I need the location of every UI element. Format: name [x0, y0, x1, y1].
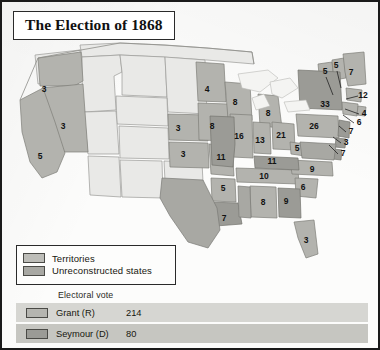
vote-label-vt: 5: [323, 66, 328, 76]
grant-swatch-icon: [26, 308, 48, 318]
vote-label-wv: 5: [295, 143, 300, 153]
vote-label-wi: 8: [233, 97, 238, 107]
vote-label-ia: 8: [210, 121, 215, 131]
vote-label-ga: 9: [284, 196, 289, 206]
page-title: The Election of 1868: [25, 16, 163, 34]
vote-label-ny: 33: [320, 99, 330, 109]
vote-label-nh: 5: [334, 60, 339, 70]
vote-label-nc: 9: [310, 164, 315, 174]
vote-label-or: 3: [42, 84, 47, 94]
vote-label-ct: 6: [357, 117, 362, 127]
vote-label-nj: 7: [349, 126, 354, 136]
unreconstructed-swatch-icon: [23, 266, 45, 276]
vote-label-la: 7: [222, 213, 227, 223]
vote-label-pa: 26: [309, 121, 319, 131]
vote-label-ne: 3: [176, 123, 181, 133]
map-title-box: The Election of 1868: [13, 11, 175, 40]
vote-label-ri: 4: [362, 108, 367, 118]
grant-label: Grant (R): [56, 308, 118, 318]
seymour-label: Seymour (D): [56, 329, 118, 339]
vote-label-mi: 8: [266, 108, 271, 118]
vote-label-de: 3: [344, 137, 349, 147]
seymour-votes: 80: [126, 329, 136, 339]
grant-votes: 214: [126, 308, 142, 318]
vote-label-tn: 10: [259, 171, 269, 181]
vote-label-al: 8: [261, 197, 266, 207]
vote-label-il: 16: [234, 131, 244, 141]
electoral-vote-heading: Electoral vote: [16, 290, 368, 303]
vote-label-mo: 11: [217, 152, 226, 162]
map-figure: 3 3 5 3 3 4 8 8 8 16 13 21 5 11 11 10 5 …: [0, 0, 380, 350]
legend-label-territories: Territories: [52, 253, 95, 264]
vote-label-nv: 3: [61, 121, 66, 131]
vote-label-ar: 5: [221, 183, 226, 193]
legend-item-unreconstructed: Unreconstructed states: [23, 265, 169, 276]
seymour-swatch-icon: [26, 329, 48, 339]
electoral-row-seymour: Seymour (D) 80: [16, 324, 368, 343]
vote-label-in: 13: [255, 135, 265, 145]
vote-label-ca: 5: [38, 151, 43, 161]
vote-label-sc: 6: [301, 182, 306, 192]
map-legend: Territories Unreconstructed states: [16, 245, 176, 285]
vote-label-oh: 21: [276, 130, 286, 140]
legend-item-territories: Territories: [23, 253, 169, 264]
vote-label-fl: 3: [304, 235, 309, 245]
electoral-row-grant: Grant (R) 214: [16, 303, 368, 322]
vote-label-mn: 4: [205, 84, 210, 94]
vote-label-ks: 3: [181, 149, 186, 159]
legend-label-unreconstructed: Unreconstructed states: [52, 265, 152, 276]
territories-swatch-icon: [23, 253, 45, 263]
vote-label-md: 7: [341, 148, 346, 158]
electoral-vote-block: Electoral vote Grant (R) 214 Seymour (D)…: [16, 290, 368, 343]
vote-label-ky: 11: [268, 156, 277, 166]
vote-label-ma: 12: [358, 90, 368, 100]
vote-label-me: 7: [349, 67, 354, 77]
